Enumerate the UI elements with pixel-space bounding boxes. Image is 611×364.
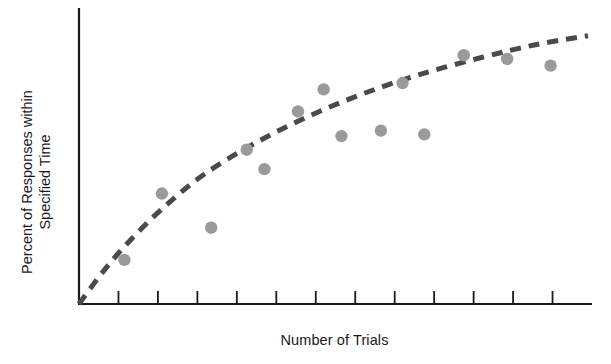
y-axis-title-line-1: Percent of Responses within <box>19 90 35 274</box>
data-point <box>458 49 470 61</box>
y-axis-title: Percent of Responses within Specified Ti… <box>18 57 54 307</box>
data-point <box>258 163 270 175</box>
data-point <box>501 53 513 65</box>
data-point <box>335 130 347 142</box>
data-point <box>292 105 304 117</box>
data-point <box>205 222 217 234</box>
x-axis-tick-group <box>118 291 552 304</box>
learning-curve-chart: Percent of Responses within Specified Ti… <box>0 0 611 364</box>
data-point <box>375 124 387 136</box>
data-point <box>118 254 130 266</box>
data-point <box>241 144 253 156</box>
data-point <box>418 128 430 140</box>
data-point <box>156 187 168 199</box>
trend-line-dashed <box>79 36 588 304</box>
axes-group <box>78 8 592 304</box>
y-axis-title-wrap: Percent of Responses within Specified Ti… <box>0 0 72 364</box>
data-point <box>544 59 556 71</box>
x-axis-title: Number of Trials <box>79 332 590 350</box>
y-axis-title-line-2: Specified Time <box>37 134 53 229</box>
data-point <box>396 77 408 89</box>
chart-canvas <box>0 0 611 364</box>
data-point-group <box>118 49 557 266</box>
data-point <box>317 83 329 95</box>
